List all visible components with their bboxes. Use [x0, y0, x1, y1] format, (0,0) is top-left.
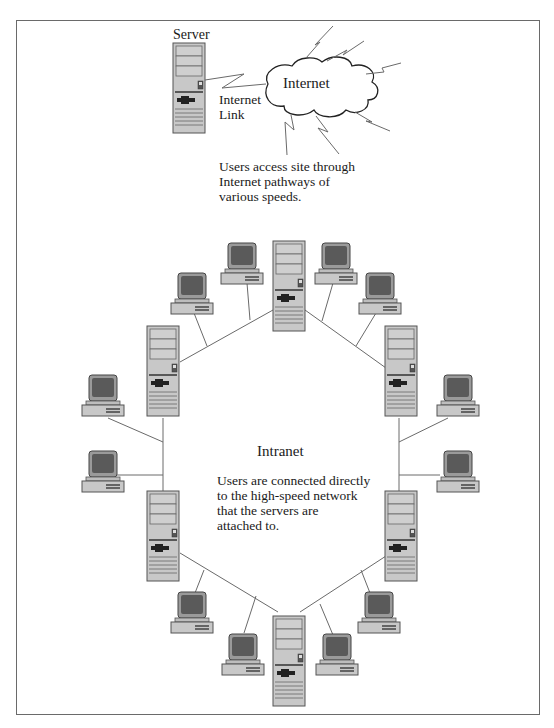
- workstation-icon: [316, 634, 358, 675]
- intranet-caption-line1: Users are connected directly: [217, 473, 370, 489]
- internet-caption-line1: Users access site through: [219, 159, 355, 175]
- workstation-icon: [171, 592, 213, 633]
- workstation-icon: [82, 451, 124, 492]
- server-icon-top: [273, 241, 305, 331]
- workstation-icon: [171, 273, 213, 314]
- internet-caption-line3: various speeds.: [219, 189, 301, 205]
- server-icon-upper-right: [385, 326, 417, 416]
- intranet-caption-line3: that the servers are: [217, 503, 319, 519]
- server-icon-lower-right: [385, 491, 417, 581]
- internet-link-line: [205, 74, 266, 88]
- internet-server-icon: [173, 43, 205, 133]
- server-icon-upper-left: [147, 326, 179, 416]
- intranet-title: Intranet: [257, 443, 304, 459]
- internet-caption-line2: Internet pathways of: [219, 174, 330, 190]
- workstation-icon: [221, 243, 263, 284]
- workstation-icon: [437, 451, 479, 492]
- workstation-icon: [222, 634, 264, 675]
- workstation-icon: [437, 375, 479, 416]
- workstation-icon: [359, 273, 401, 314]
- internet-cloud-label: Internet: [283, 75, 330, 91]
- workstation-icon: [315, 243, 357, 284]
- intranet-caption-line2: to the high-speed network: [217, 488, 358, 504]
- internet-link-label-line2: Link: [219, 107, 245, 123]
- workstation-icon: [358, 592, 400, 633]
- intranet-caption-line4: attached to.: [217, 518, 279, 534]
- workstation-icon: [82, 375, 124, 416]
- server-icon-bottom: [273, 616, 305, 706]
- network-diagram: [0, 0, 554, 728]
- internet-link-label-line1: Internet: [219, 92, 261, 108]
- server-icon-lower-left: [147, 491, 179, 581]
- server-label: Server: [173, 27, 210, 43]
